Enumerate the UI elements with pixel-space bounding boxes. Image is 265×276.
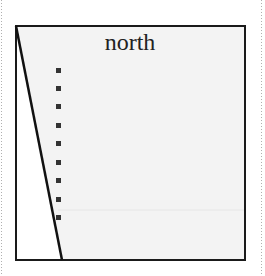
diagram-canvas: north: [0, 0, 265, 276]
marker-square: [56, 160, 61, 165]
marker-square: [56, 141, 61, 146]
marker-square: [56, 123, 61, 128]
marker-column: [56, 68, 61, 220]
north-label: north: [105, 29, 156, 55]
marker-square: [56, 215, 61, 220]
shaded-region: [16, 26, 245, 260]
marker-square: [56, 86, 61, 91]
marker-square: [56, 68, 61, 73]
marker-square: [56, 178, 61, 183]
marker-square: [56, 104, 61, 109]
marker-square: [56, 197, 61, 202]
